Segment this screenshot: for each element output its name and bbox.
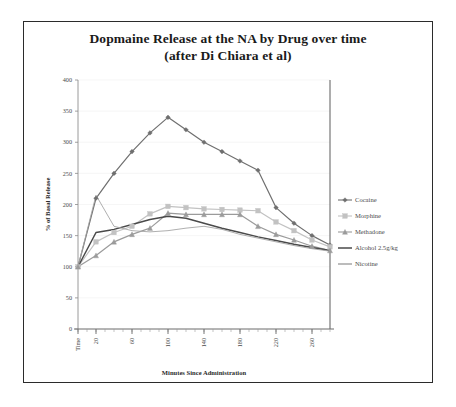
legend-item-morphine[interactable]: Morphine	[338, 212, 381, 219]
x-tick-label: 220	[272, 338, 279, 347]
chart-canvas: 050100150200250300350400Time206010014018…	[0, 0, 456, 407]
x-tick-label: 140	[200, 338, 207, 347]
y-tick-label: 300	[63, 138, 72, 145]
series-point-morphine	[112, 230, 117, 235]
series-point-morphine	[202, 207, 207, 212]
y-tick-label: 100	[63, 263, 72, 270]
legend-swatch-marker	[343, 214, 348, 219]
x-tick-label: 180	[236, 338, 243, 347]
series-point-morphine	[274, 220, 279, 225]
y-tick-label: 400	[63, 76, 72, 83]
legend-label: Alcohol 2.5g/kg	[355, 244, 399, 251]
x-axis-title: Minutes Since Administration	[162, 369, 247, 376]
legend-item-alcohol-2-5g-kg[interactable]: Alcohol 2.5g/kg	[338, 244, 399, 251]
x-tick-label: 60	[128, 338, 135, 344]
series-point-morphine	[130, 224, 135, 229]
y-axis-title: % of Basal Release	[44, 178, 51, 232]
legend-item-methadone[interactable]: Methadone	[338, 228, 385, 235]
x-tick-label: 260	[308, 338, 315, 347]
series-point-morphine	[184, 205, 189, 210]
legend-item-nicotine[interactable]: Nicotine	[338, 260, 378, 267]
y-tick-label: 200	[63, 201, 72, 208]
y-tick-label: 150	[63, 232, 72, 239]
series-point-morphine	[148, 212, 153, 217]
series-point-morphine	[310, 238, 315, 243]
y-tick-label: 50	[66, 294, 72, 301]
x-tick-label: 20	[92, 338, 99, 344]
series-point-morphine	[220, 207, 225, 212]
y-tick-label: 250	[63, 170, 72, 177]
series-point-morphine	[256, 208, 261, 213]
legend-swatch-marker	[343, 198, 348, 203]
plot-area: 050100150200250300350400Time206010014018…	[44, 76, 399, 376]
legend-label: Morphine	[355, 212, 381, 219]
legend-item-cocaine[interactable]: Cocaine	[338, 196, 377, 203]
series-point-morphine	[94, 240, 99, 245]
series-point-morphine	[292, 228, 297, 233]
legend-label: Methadone	[355, 228, 385, 235]
legend-label: Nicotine	[355, 260, 378, 267]
y-tick-label: 0	[69, 325, 72, 332]
x-tick-label: 100	[164, 338, 171, 347]
y-tick-label: 350	[63, 107, 72, 114]
x-tick-label: Time	[74, 338, 81, 351]
legend-label: Cocaine	[355, 196, 377, 203]
series-point-morphine	[166, 204, 171, 209]
